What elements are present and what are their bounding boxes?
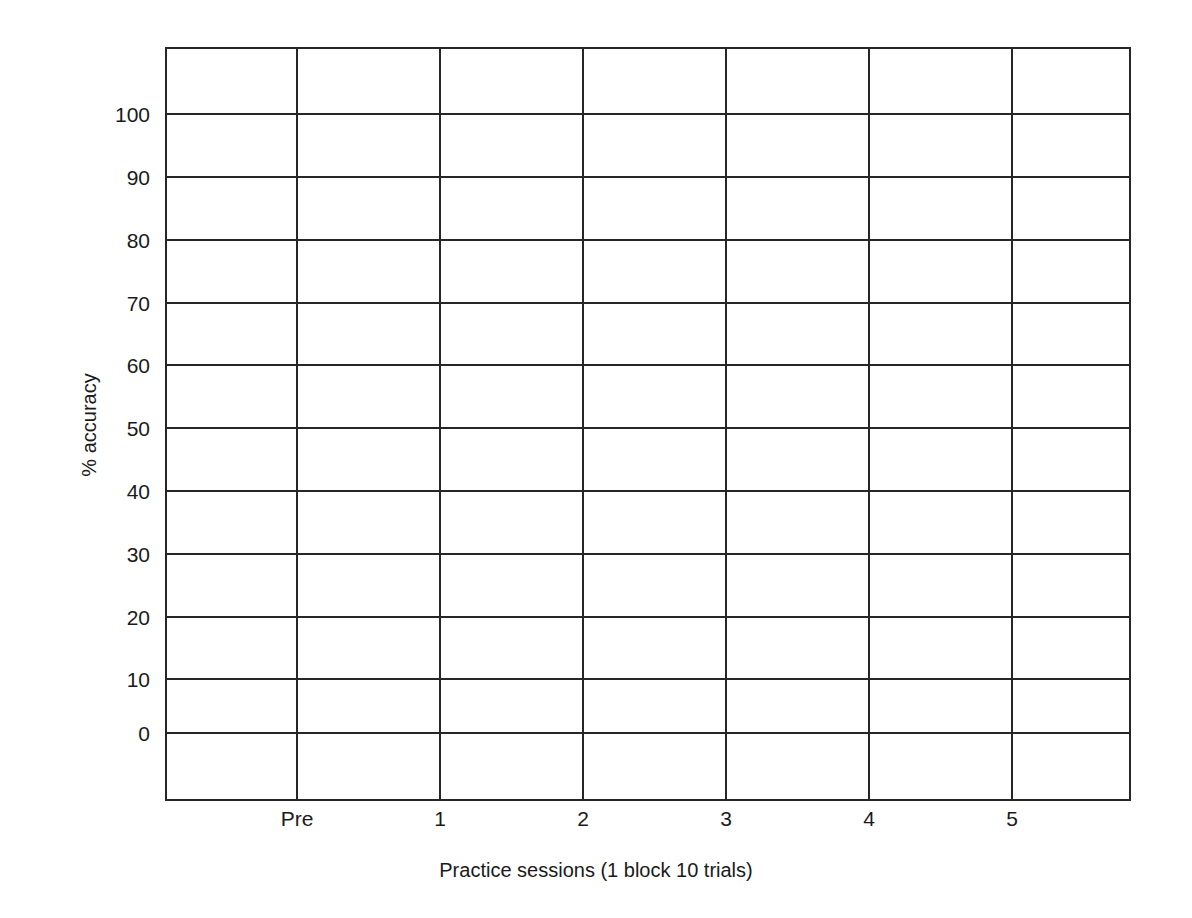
y-axis-tick-label: 40 bbox=[95, 481, 150, 502]
y-axis-tick-label: 90 bbox=[95, 167, 150, 188]
y-axis-tick-label: 80 bbox=[95, 230, 150, 251]
y-axis-tick-label: 70 bbox=[95, 293, 150, 314]
x-axis-title: Practice sessions (1 block 10 trials) bbox=[0, 858, 1192, 882]
x-axis-tick-labels: Pre12345 bbox=[0, 806, 1192, 840]
x-axis-tick-label: 5 bbox=[952, 806, 1072, 832]
x-axis-tick-label: 4 bbox=[809, 806, 929, 832]
x-axis-tick-label: 3 bbox=[666, 806, 786, 832]
y-axis-tick-label: 20 bbox=[95, 607, 150, 628]
y-axis-tick-label: 100 bbox=[95, 104, 150, 125]
plot-area bbox=[165, 47, 1131, 801]
y-axis-tick-label: 0 bbox=[95, 723, 150, 744]
y-axis-tick-label: 30 bbox=[95, 544, 150, 565]
x-axis-tick-label: 2 bbox=[523, 806, 643, 832]
plot-grid-svg bbox=[165, 47, 1131, 801]
y-axis-tick-labels: 1009080706050403020100 bbox=[95, 0, 150, 918]
plot-border bbox=[166, 48, 1130, 800]
vertical-gridlines bbox=[297, 47, 1012, 801]
x-axis-tick-label: Pre bbox=[237, 806, 357, 832]
x-axis-tick-label: 1 bbox=[380, 806, 500, 832]
y-axis-tick-label: 60 bbox=[95, 355, 150, 376]
y-axis-tick-label: 10 bbox=[95, 669, 150, 690]
chart-figure: % accuracy 1009080706050403020100 Pre123… bbox=[0, 0, 1192, 918]
horizontal-gridlines bbox=[165, 114, 1131, 733]
y-axis-tick-label: 50 bbox=[95, 418, 150, 439]
